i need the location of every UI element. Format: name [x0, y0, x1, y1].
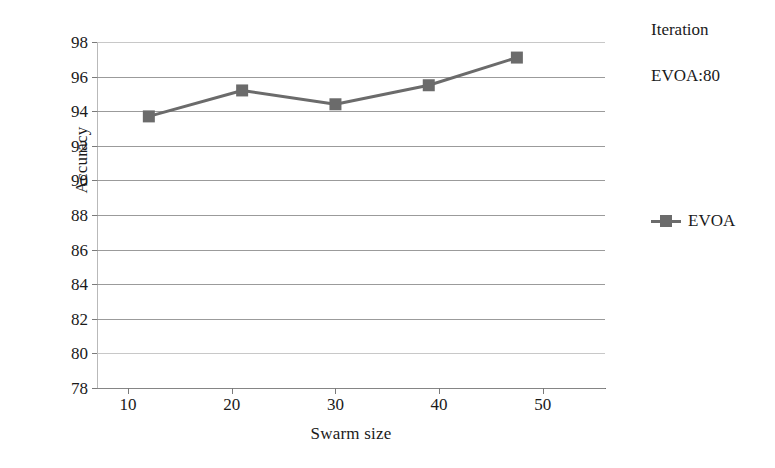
data-point-marker	[423, 79, 435, 91]
legend-marker-icon	[651, 214, 681, 228]
y-tick-label: 94	[71, 103, 88, 120]
x-tick-label: 50	[534, 396, 551, 413]
y-tick-mark	[92, 388, 97, 389]
gridline	[97, 388, 605, 389]
x-tick-label: 30	[327, 396, 344, 413]
x-tick-mark	[543, 388, 544, 394]
data-point-marker	[511, 52, 523, 64]
x-tick-mark	[232, 388, 233, 394]
x-tick-label: 40	[431, 396, 448, 413]
data-point-marker	[143, 110, 155, 122]
y-tick-label: 98	[71, 34, 88, 51]
x-tick-mark	[439, 388, 440, 394]
y-tick-label: 80	[71, 345, 88, 362]
x-tick-mark	[335, 388, 336, 394]
x-axis-title: Swarm size	[97, 424, 605, 444]
y-tick-label: 96	[71, 68, 88, 85]
series-markers-evoa	[143, 52, 523, 123]
legend-entry-label: EVOA	[688, 211, 735, 231]
x-tick-mark	[128, 388, 129, 394]
legend-subheading: EVOA:80	[651, 66, 720, 86]
legend-heading: Iteration	[651, 20, 709, 40]
line-chart-figure: Accuracy 7880828486889092949698 10203040…	[0, 0, 775, 468]
y-tick-label: 78	[71, 380, 88, 397]
y-tick-label: 86	[71, 241, 88, 258]
plot-area: 7880828486889092949698 1020304050	[97, 42, 605, 388]
data-point-marker	[236, 84, 248, 96]
y-tick-label: 88	[71, 207, 88, 224]
y-tick-label: 92	[71, 137, 88, 154]
series-plot	[97, 42, 605, 388]
legend-entry-evoa: EVOA	[651, 211, 735, 231]
x-tick-label: 20	[223, 396, 240, 413]
y-tick-label: 84	[71, 276, 88, 293]
y-tick-label: 90	[71, 172, 88, 189]
y-tick-label: 82	[71, 310, 88, 327]
data-point-marker	[329, 98, 341, 110]
x-tick-label: 10	[120, 396, 137, 413]
